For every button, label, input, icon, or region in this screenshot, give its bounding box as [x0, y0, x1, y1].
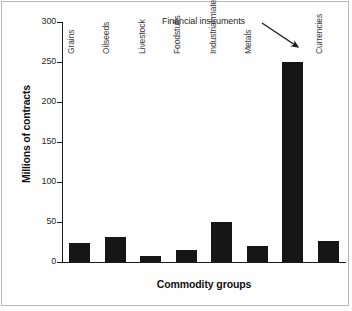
category-label: Livestock — [137, 19, 147, 54]
bar — [140, 256, 161, 262]
category-label: Grains — [66, 30, 76, 54]
arrow-down-right-icon — [150, 12, 310, 62]
y-axis-tick — [57, 22, 62, 23]
y-axis-tick — [57, 102, 62, 103]
y-axis-title: Millions of contracts — [20, 64, 32, 204]
bar — [247, 246, 268, 262]
category-label: Oilseeds — [101, 22, 111, 54]
bar — [211, 222, 232, 262]
y-axis-tick-label: 50 — [16, 216, 56, 226]
x-axis-title: Commodity groups — [62, 278, 346, 290]
y-axis-tick — [57, 62, 62, 63]
bar — [69, 243, 90, 262]
y-axis-tick — [57, 142, 62, 143]
category-label: Currencies — [314, 14, 324, 54]
bar-chart-plot-area: 050100150200250300 GrainsOilseedsLivesto… — [0, 0, 352, 311]
y-axis-tick — [57, 222, 62, 223]
chart-figure: 050100150200250300 GrainsOilseedsLivesto… — [0, 0, 352, 311]
bar — [176, 250, 197, 262]
bar — [318, 241, 339, 262]
y-axis-tick — [57, 262, 62, 263]
y-axis-line — [62, 22, 63, 263]
y-axis-tick-label: 0 — [16, 256, 56, 266]
bar — [105, 237, 126, 262]
y-axis-tick — [57, 182, 62, 183]
bar — [282, 62, 303, 262]
x-axis-line — [62, 262, 346, 263]
y-axis-tick-label: 300 — [16, 16, 56, 26]
